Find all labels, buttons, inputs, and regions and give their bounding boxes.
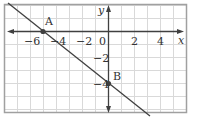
x-tick-label: −4	[50, 35, 66, 48]
x-tick-label: −6	[24, 35, 40, 48]
x-tick-label: 0	[99, 35, 106, 48]
coordinate-plane: A B x y −6 −4 −2 0 2 4 −2 −4	[0, 0, 199, 117]
y-axis-up-arrow-icon	[106, 5, 111, 12]
x-tick-label: −2	[76, 35, 92, 48]
x-tick-label: 2	[131, 35, 138, 48]
line-ab	[8, 3, 150, 116]
point-a-label: A	[44, 15, 54, 28]
x-tick-label: 4	[157, 35, 164, 48]
y-tick-label: −2	[93, 52, 109, 65]
y-axis-label: y	[97, 4, 105, 17]
point-a	[40, 29, 45, 34]
x-axis-label: x	[178, 34, 185, 47]
point-b-label: B	[113, 70, 121, 83]
x-axis-left-arrow-icon	[7, 29, 14, 34]
y-tick-label: −4	[93, 78, 109, 91]
